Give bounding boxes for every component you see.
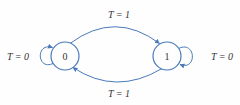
transition-right-label: T = 0 [211, 51, 233, 62]
state-diagram: 0 1 T = 1 T = 1 T = 0 T = 0 [0, 0, 240, 105]
state-0-label: 0 [63, 51, 68, 62]
transition-top-label: T = 1 [108, 9, 130, 20]
transition-left-label: T = 0 [7, 51, 29, 62]
transition-bottom-label: T = 1 [108, 88, 130, 99]
transition-0-to-1-arc [70, 27, 160, 44]
state-1-label: 1 [165, 51, 170, 62]
transition-1-to-0-arc [73, 68, 162, 83]
state-diagram-canvas: 0 1 T = 1 T = 1 T = 0 T = 0 [0, 0, 240, 105]
